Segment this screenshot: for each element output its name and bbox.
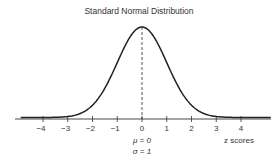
x-tick-label: 0 [140, 124, 145, 133]
chart-title: Standard Normal Distribution [84, 6, 193, 16]
x-tick-label: −4 [36, 124, 46, 133]
standard-normal-chart: Standard Normal Distribution −4−3−2−1012… [0, 0, 278, 165]
x-tick-label: 4 [239, 124, 244, 133]
x-tick-label: −3 [61, 124, 71, 133]
x-axis-tick-labels: −4−3−2−101234 [36, 124, 243, 133]
normal-curve [21, 27, 271, 118]
x-axis-label: z scores [224, 136, 254, 145]
x-tick-label: 1 [165, 124, 170, 133]
x-tick-label: 2 [189, 124, 194, 133]
mu-label: μ = 0 [132, 136, 152, 145]
x-tick-label: 3 [214, 124, 219, 133]
x-tick-label: −2 [86, 124, 96, 133]
x-tick-label: −1 [111, 124, 121, 133]
sigma-label: σ = 1 [133, 147, 151, 156]
